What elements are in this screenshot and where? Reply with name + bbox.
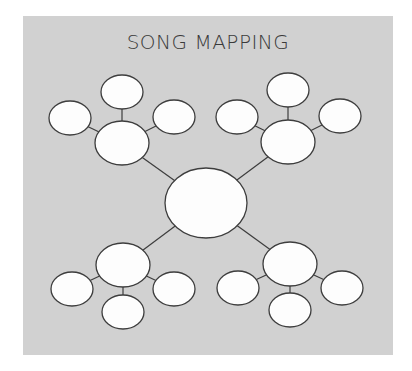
leaf-node[interactable]	[49, 101, 91, 135]
leaf-node[interactable]	[269, 293, 311, 327]
center-node[interactable]	[165, 168, 247, 238]
hub-node[interactable]	[261, 120, 315, 164]
leaf-node[interactable]	[153, 100, 195, 134]
hub-node[interactable]	[96, 243, 150, 287]
hub-node[interactable]	[95, 121, 149, 165]
leaf-node[interactable]	[319, 99, 361, 133]
leaf-node[interactable]	[153, 272, 195, 306]
leaf-node[interactable]	[101, 75, 143, 109]
leaf-node[interactable]	[321, 271, 363, 305]
leaf-node[interactable]	[102, 295, 144, 329]
leaf-node[interactable]	[51, 272, 93, 306]
hub-node[interactable]	[263, 242, 317, 286]
leaf-node[interactable]	[267, 73, 309, 107]
song-map-diagram	[0, 0, 412, 371]
leaf-node[interactable]	[217, 271, 259, 305]
leaf-node[interactable]	[216, 100, 258, 134]
